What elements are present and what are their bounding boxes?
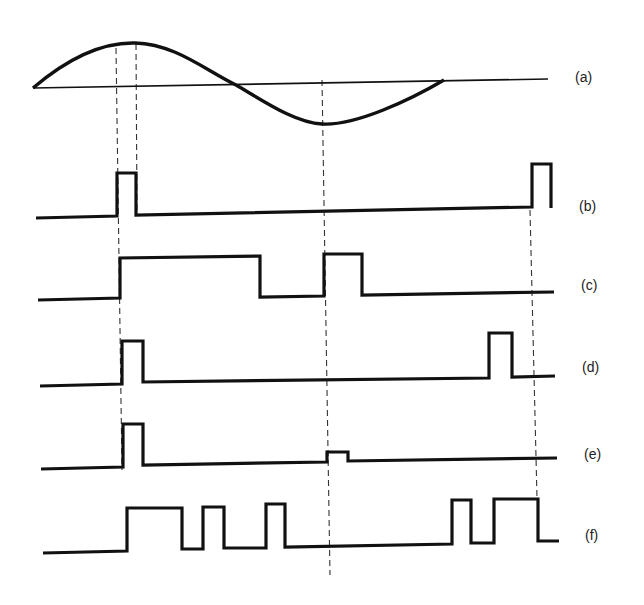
- reference-axis: [33, 79, 548, 88]
- trace-label-a: (a): [575, 69, 592, 85]
- trace-label-b: (b): [579, 198, 596, 214]
- timing-diagram: [0, 0, 644, 605]
- trace-b: [36, 164, 551, 218]
- trace-label-c: (c): [581, 277, 597, 293]
- trace-label-d: (d): [582, 359, 599, 375]
- trace-d: [40, 333, 555, 386]
- trace-e: [41, 424, 557, 469]
- trace-c: [38, 254, 554, 300]
- sine-wave: [33, 43, 444, 124]
- trace-label-f: (f): [585, 527, 598, 543]
- trace-f: [43, 499, 559, 553]
- trace-a: [33, 43, 548, 124]
- trace-label-e: (e): [584, 446, 601, 462]
